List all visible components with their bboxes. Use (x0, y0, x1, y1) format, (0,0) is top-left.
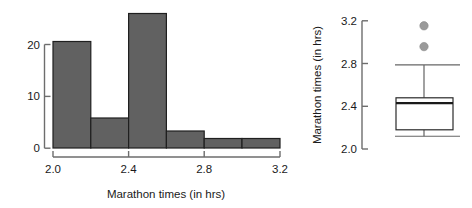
histogram-bar (91, 118, 129, 148)
histogram-x-axis (53, 151, 280, 157)
histogram-bar (166, 131, 204, 148)
histogram-y-axis (45, 45, 51, 149)
histogram-bar (53, 42, 91, 149)
y-tick-label: 20 (27, 39, 40, 51)
y-tick-label: 2.4 (341, 100, 358, 112)
x-tick-label: 3.2 (272, 163, 288, 175)
histogram-bar (204, 139, 242, 149)
boxplot-glyph (395, 22, 460, 137)
y-tick-label: 10 (27, 90, 40, 102)
x-tick-label: 2.4 (121, 163, 138, 175)
outlier-point (420, 22, 428, 30)
histogram-x-axis-title: Marathon times (in hrs) (107, 188, 225, 200)
boxplot-y-axis-title: Marathon times (in hrs) (311, 26, 323, 144)
histogram-svg: 20 10 0 2.0 2.4 2.8 3.2 Marathon times (… (0, 0, 300, 208)
outlier-point (420, 42, 428, 50)
histogram-x-tick-labels: 2.0 2.4 2.8 3.2 (45, 163, 288, 175)
x-tick-label: 2.8 (196, 163, 212, 175)
histogram-panel: 20 10 0 2.0 2.4 2.8 3.2 Marathon times (… (0, 0, 300, 208)
histogram-bar (129, 14, 167, 149)
boxplot-y-axis (362, 21, 368, 149)
boxplot-svg: Marathon times (in hrs) 3.2 2.8 2.4 2.0 (300, 0, 472, 208)
y-tick-label: 3.2 (341, 15, 357, 27)
boxplot-y-tick-labels: 3.2 2.8 2.4 2.0 (341, 15, 358, 155)
histogram-bar (242, 139, 280, 149)
y-tick-label: 2.0 (341, 143, 357, 155)
y-tick-label: 0 (34, 142, 40, 154)
x-tick-label: 2.0 (45, 163, 61, 175)
boxplot-panel: Marathon times (in hrs) 3.2 2.8 2.4 2.0 (300, 0, 472, 208)
histogram-bars (53, 14, 280, 149)
y-tick-label: 2.8 (341, 58, 357, 70)
figure-container: 20 10 0 2.0 2.4 2.8 3.2 Marathon times (… (0, 0, 472, 208)
histogram-y-tick-labels: 20 10 0 (27, 39, 40, 155)
